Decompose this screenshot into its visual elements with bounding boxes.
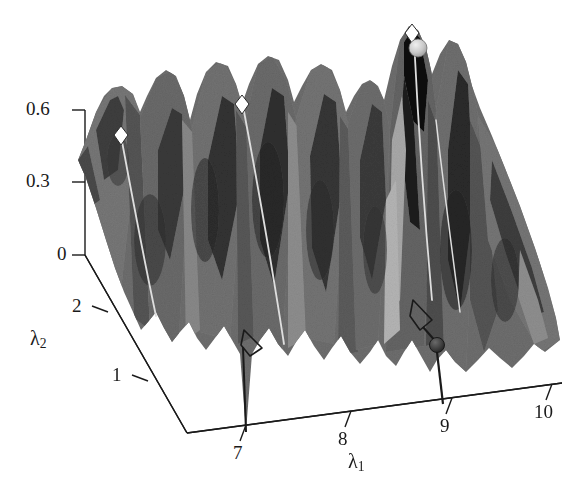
lambda2-tick-1 (132, 375, 148, 381)
lambda2-axis-title-subscript: 2 (40, 336, 47, 351)
lambda2-tick-2 (92, 306, 108, 312)
lambda2-axis-title: λ2 (30, 328, 47, 351)
lambda1-axis-title-symbol: λ (348, 450, 358, 472)
lambda1-tick-8 (345, 411, 351, 427)
lambda1-tick-9 (446, 398, 452, 414)
lambda1-axis-title-subscript: 1 (358, 459, 365, 474)
lambda2-tick-label-2: 2 (72, 296, 82, 315)
lambda1-axis-title: λ1 (348, 451, 365, 474)
lambda1-tick-10 (546, 384, 552, 400)
maximum-estimate-ball (409, 39, 427, 57)
z-tick-label-0: 0 (57, 244, 67, 263)
projected-estimate-ball (430, 338, 445, 353)
lambda1-tick-label-9: 9 (440, 416, 450, 435)
lambda2-axis-title-symbol: λ (30, 327, 40, 349)
lambda1-tick-label-7: 7 (233, 443, 243, 462)
z-tick-label-0-3: 0.3 (26, 171, 50, 190)
lambda1-tick-label-10: 10 (534, 402, 553, 421)
surface-plot-figure: 0.6 0.3 0 2 1 λ2 7 8 9 10 λ1 Ridged obje… (0, 0, 579, 490)
surface-plot-canvas (0, 0, 579, 490)
z-tick-label-0-6: 0.6 (26, 99, 50, 118)
lambda2-tick-label-1: 1 (112, 365, 122, 384)
lambda1-tick-label-8: 8 (338, 429, 348, 448)
valley-spike-right (437, 352, 443, 404)
